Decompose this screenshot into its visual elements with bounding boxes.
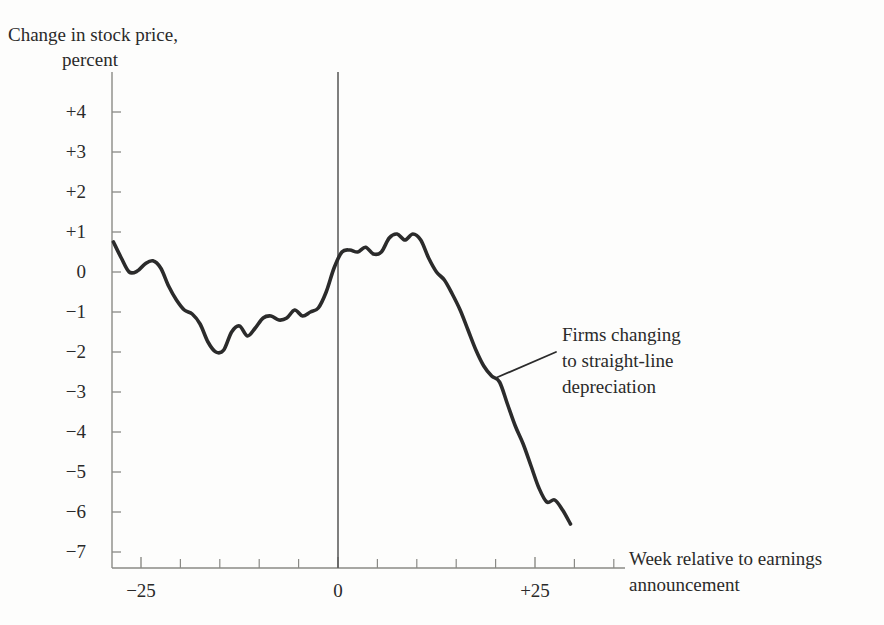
annotation-line-3: depreciation xyxy=(562,374,656,400)
data-series-line xyxy=(113,234,570,524)
y-axis-tick-label: −3 xyxy=(40,381,86,403)
x-axis-tick-label: +25 xyxy=(500,580,570,602)
chart-figure: Change in stock price, percent +4+3+2+10… xyxy=(0,0,884,625)
x-axis-tick-label: −25 xyxy=(106,580,176,602)
x-axis-tick-label: 0 xyxy=(303,580,373,602)
y-axis-tick-label: −1 xyxy=(40,301,86,323)
annotation-line-1: Firms changing xyxy=(562,322,681,348)
annotation-leader-line xyxy=(496,352,556,378)
y-axis-tick-label: +4 xyxy=(40,101,86,123)
y-axis-tick-label: 0 xyxy=(40,261,86,283)
y-axis-tick-label: −4 xyxy=(40,421,86,443)
y-axis-tick-label: +3 xyxy=(40,141,86,163)
y-axis-tick-label: +1 xyxy=(40,221,86,243)
y-axis-tick-label: −5 xyxy=(40,461,86,483)
plot-area xyxy=(0,0,884,625)
annotation-line-2: to straight-line xyxy=(562,348,673,374)
y-axis-tick-label: −6 xyxy=(40,501,86,523)
x-axis-title-line-2: announcement xyxy=(629,572,740,598)
y-axis-tick-label: −7 xyxy=(40,541,86,563)
y-axis-tick-label: −2 xyxy=(40,341,86,363)
x-axis-title-line-1: Week relative to earnings xyxy=(629,546,822,572)
y-axis-tick-label: +2 xyxy=(40,181,86,203)
